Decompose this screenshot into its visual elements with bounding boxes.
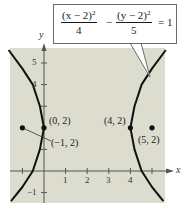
point-label-vertex-left: (0, 2) xyxy=(49,115,71,126)
term1-denominator: 4 xyxy=(61,23,97,36)
point-label-focus-left: (−1, 2) xyxy=(51,137,78,148)
equation-callout: (x − 2)2 4 − (y − 2)2 5 = 1 xyxy=(53,4,177,44)
point-vertex-left xyxy=(41,125,46,130)
x-tick-label-4: 4 xyxy=(128,175,133,185)
x-tick-label-3: 3 xyxy=(106,175,111,185)
y-axis-label: y xyxy=(39,29,43,40)
x-tick-label-1: 1 xyxy=(63,175,68,185)
equals-one: = 1 xyxy=(158,16,172,28)
point-label-focus-right: (5, 2) xyxy=(138,134,160,145)
x-tick-label-2: 2 xyxy=(85,175,90,185)
term1-exponent: 2 xyxy=(92,9,96,17)
term2-denominator: 5 xyxy=(116,23,152,36)
fraction-x-term: (x − 2)2 4 xyxy=(61,9,97,36)
point-focus-right xyxy=(149,125,154,130)
y-axis-arrow-icon xyxy=(42,43,47,51)
point-vertex-right xyxy=(128,125,133,130)
y-tick-label-4: 4 xyxy=(32,79,37,89)
minus-operator: − xyxy=(106,16,112,28)
y-tick-label-5: 5 xyxy=(32,57,37,67)
x-axis-arrow-icon xyxy=(166,169,174,174)
x-axis-label: x xyxy=(176,164,180,175)
fraction-y-term: (y − 2)2 5 xyxy=(116,9,152,36)
point-label-vertex-right: (4, 2) xyxy=(104,115,126,126)
term2-numerator: (y − 2) xyxy=(117,9,147,21)
term1-numerator: (x − 2) xyxy=(62,9,92,21)
point-focus-left xyxy=(20,125,25,130)
y-tick-label-neg1: −1 xyxy=(27,187,37,197)
term2-exponent: 2 xyxy=(147,9,151,17)
